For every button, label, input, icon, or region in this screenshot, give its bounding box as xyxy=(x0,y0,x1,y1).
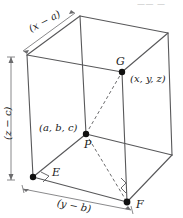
cropped-header-artifact: —— — xyxy=(137,0,181,7)
point-dot-e xyxy=(30,174,36,180)
edge-vertical-back-left xyxy=(80,16,86,134)
edge-top-front xyxy=(27,55,122,72)
point-dot-g xyxy=(119,69,125,75)
dim-arrow-left-top xyxy=(9,57,14,63)
right-angle-mark-f xyxy=(121,178,126,193)
dashed-p-to-f xyxy=(86,134,127,202)
label-point-g: G xyxy=(116,56,125,67)
dim-tick-bottom-end xyxy=(131,206,133,214)
label-point-e: E xyxy=(52,167,60,178)
box-edges xyxy=(27,16,172,202)
dimension-lines xyxy=(7,10,133,214)
label-point-f: F xyxy=(136,199,144,210)
diagram-svg xyxy=(0,0,183,218)
label-dimension-z-minus-c: (z − c) xyxy=(3,107,13,140)
vertex-points xyxy=(30,69,131,206)
edge-top-right-back xyxy=(122,33,168,72)
edge-vertical-back-right xyxy=(168,33,172,155)
dashed-p-to-g xyxy=(86,72,122,134)
box-distance-diagram: —— — G (x, y, z) (a, b, c) P E F (x − a)… xyxy=(0,0,183,218)
dashed-diagonals xyxy=(86,72,127,202)
label-point-p: P xyxy=(84,139,91,150)
edge-bottom-back xyxy=(86,134,172,155)
label-coord-g: (x, y, z) xyxy=(130,74,166,84)
edge-bottom-front xyxy=(33,177,127,202)
label-coord-p: (a, b, c) xyxy=(39,123,77,133)
point-dot-p xyxy=(83,131,89,137)
dim-arrow-left-bottom xyxy=(9,174,14,180)
edge-vertical-front-left xyxy=(27,55,33,177)
edge-bottom-right xyxy=(127,155,172,202)
edge-vertical-front-right xyxy=(122,72,127,202)
point-dot-f xyxy=(124,199,131,206)
edge-top-back xyxy=(80,16,168,33)
